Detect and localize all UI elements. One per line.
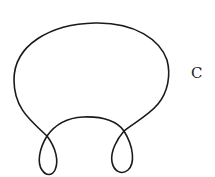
inner-arch [47,117,124,136]
outer-curve [14,23,169,136]
left-loop [39,136,56,175]
curve-diagram [0,0,215,177]
right-loop [112,131,133,172]
curve-label: C [191,66,202,81]
